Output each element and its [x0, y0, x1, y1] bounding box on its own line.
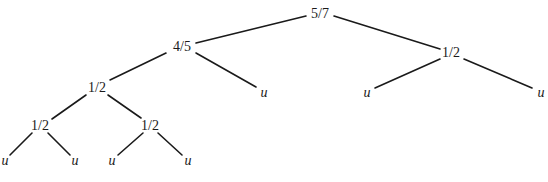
edge-n5-u6 [118, 133, 143, 155]
edge-n3-n4 [52, 95, 86, 119]
node-root: 5/7 [311, 7, 329, 21]
node-left-1-2: 1/2 [88, 81, 106, 95]
tree-edges [0, 0, 548, 182]
tree-diagram: 5/7 4/5 1/2 1/2 u u u 1/2 1/2 u u u u [0, 0, 548, 182]
edge-n4-u5 [48, 133, 70, 155]
edge-n1-u1 [196, 53, 256, 87]
node-right-1-2: 1/2 [442, 46, 460, 60]
leaf-u: u [109, 154, 116, 168]
node-4-5: 4/5 [173, 40, 191, 54]
node-lower-left-1-2: 1/2 [31, 119, 49, 133]
edge-n3-n5 [108, 95, 141, 118]
leaf-u: u [72, 154, 79, 168]
edge-n5-u7 [158, 133, 182, 155]
leaf-u: u [185, 154, 192, 168]
leaf-u: u [364, 86, 371, 100]
leaf-u: u [538, 86, 545, 100]
edge-n2-u2 [375, 59, 440, 88]
leaf-u: u [2, 154, 9, 168]
edge-root-n1 [196, 16, 306, 43]
edge-n1-n3 [110, 53, 166, 80]
edge-n2-u3 [464, 59, 532, 88]
leaf-u: u [261, 86, 268, 100]
edge-n4-u4 [10, 133, 32, 155]
edge-root-n2 [334, 16, 440, 49]
node-lower-right-1-2: 1/2 [141, 119, 159, 133]
